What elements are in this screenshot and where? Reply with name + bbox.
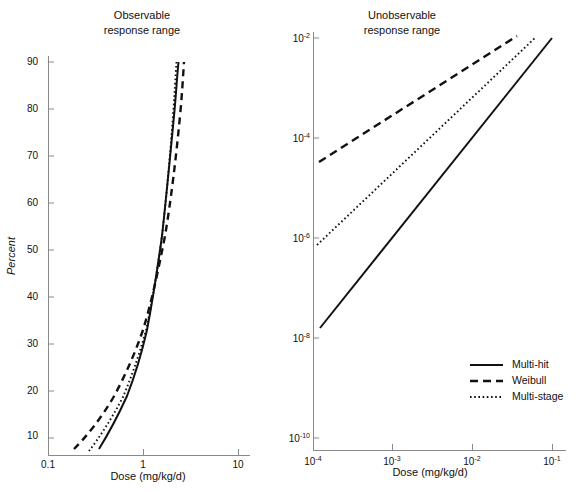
left-y-tick-10: 10 — [10, 430, 38, 441]
right-y-tick-1e-8-exp: -8 — [304, 332, 310, 339]
right-panel-title-line1: Unobservable — [368, 9, 436, 21]
left-series-weibull — [74, 62, 184, 449]
left-y-tick-80: 80 — [10, 103, 38, 114]
right-y-tick-1e-2-base: 10 — [293, 33, 304, 44]
right-x-tick-1e-4: 10-4 — [293, 455, 333, 467]
left-y-tick-60: 60 — [10, 197, 38, 208]
left-panel-title: Observableresponse range — [52, 8, 232, 38]
right-axis-lines — [313, 32, 566, 451]
right-series-weibull — [319, 36, 517, 162]
right-panel-title-line2: response range — [364, 24, 440, 36]
right-panel-title: Unobservableresponse range — [312, 8, 492, 38]
right-x-tick-1e-3-exp: -3 — [394, 455, 400, 462]
left-series-multi-stage — [89, 62, 177, 451]
left-y-tick-20: 20 — [10, 385, 38, 396]
right-y-tick-1e-10-base: 10 — [289, 433, 300, 444]
left-panel-title-line2: response range — [104, 24, 180, 36]
left-y-tick-50: 50 — [10, 244, 38, 255]
right-y-tick-1e-6-base: 10 — [293, 233, 304, 244]
right-x-tick-1e-4-base: 10 — [304, 456, 315, 467]
right-y-tick-1e-4-exp: -4 — [304, 132, 310, 139]
left-panel-plot — [0, 0, 579, 492]
legend-label-multi-stage: Multi-stage — [512, 390, 563, 402]
left-y-tick-30: 30 — [10, 338, 38, 349]
right-y-tick-1e-4: 10-4 — [278, 132, 310, 144]
right-series-multi-hit — [320, 38, 552, 328]
right-panel-x-axis-label: Dose (mg/kg/d) — [340, 466, 520, 478]
left-series-multi-hit — [99, 62, 179, 449]
right-panel-plot — [0, 0, 579, 492]
legend-label-weibull: Weibull — [512, 374, 546, 386]
left-y-tick-70: 70 — [10, 150, 38, 161]
left-x-tick-0.1: 0.1 — [28, 459, 68, 470]
legend-label-multi-hit: Multi-hit — [512, 358, 549, 370]
left-y-tick-90: 90 — [10, 56, 38, 67]
right-y-tick-1e-8-base: 10 — [293, 333, 304, 344]
left-y-tick-40: 40 — [10, 291, 38, 302]
right-y-tick-1e-2-exp: -2 — [304, 32, 310, 39]
figure-container: Observableresponse range Percent 90 80 7… — [0, 0, 579, 492]
legend-keys — [470, 365, 503, 397]
right-y-tick-1e-10-exp: -10 — [300, 432, 310, 439]
right-y-tick-1e-2: 10-2 — [278, 32, 310, 44]
right-x-tick-1e-4-exp: -4 — [315, 455, 321, 462]
left-panel-y-axis-label: Percent — [5, 221, 17, 291]
left-panel-x-axis-label: Dose (mg/kg/d) — [58, 470, 238, 482]
left-x-tick-10: 10 — [218, 459, 258, 470]
left-axis-lines — [48, 56, 250, 456]
right-x-tick-1e-1-exp: -1 — [554, 455, 560, 462]
right-y-tick-1e-10: 10-10 — [272, 432, 310, 444]
right-series-multi-stage — [317, 37, 536, 245]
right-x-tick-1e-1-base: 10 — [543, 456, 554, 467]
left-panel-title-line1: Observable — [114, 9, 170, 21]
right-x-tick-1e-2-exp: -2 — [474, 455, 480, 462]
right-y-tick-1e-4-base: 10 — [293, 133, 304, 144]
right-y-tick-1e-6-exp: -6 — [304, 232, 310, 239]
right-y-tick-1e-8: 10-8 — [278, 332, 310, 344]
left-x-tick-1: 1 — [123, 459, 163, 470]
right-y-tick-1e-6: 10-6 — [278, 232, 310, 244]
right-x-tick-1e-1: 10-1 — [532, 455, 572, 467]
